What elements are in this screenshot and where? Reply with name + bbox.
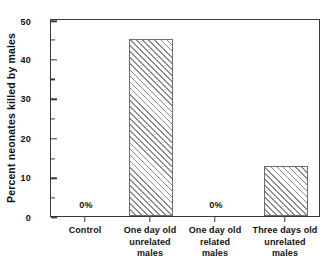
- y-tick-major-0: [51, 216, 57, 217]
- x-category-label-three-days-old-unrelated-males: Three days old unrelated males: [242, 225, 328, 260]
- y-tick-minor-5: [51, 198, 55, 199]
- x-category-line: Three days old: [242, 225, 328, 237]
- x-tick-one-day-old-unrelated-males: [149, 217, 150, 222]
- x-category-line: males: [242, 248, 328, 260]
- y-tick-label-40: 40: [0, 55, 31, 65]
- plot-area: 0 10 20 30 40 50 0% 0%: [50, 19, 320, 217]
- y-tick-major-20: [51, 138, 57, 139]
- bar-three-days-old-unrelated-males: [264, 166, 308, 216]
- y-tick-minor-25: [51, 118, 55, 119]
- x-tick-control: [84, 217, 85, 222]
- x-category-line: unrelated: [242, 237, 328, 249]
- y-axis-title: Percent neonates killed by males: [0, 19, 22, 217]
- y-tick-major-40: [51, 59, 57, 60]
- y-tick-minor-15: [51, 158, 55, 159]
- annotation-zero-percent-control: 0%: [79, 200, 92, 210]
- y-tick-major-50: [51, 20, 57, 21]
- y-tick-minor-35: [51, 79, 55, 80]
- y-tick-label-0: 0: [0, 213, 31, 223]
- y-tick-label-20: 20: [0, 134, 31, 144]
- x-tick-three-days-old-unrelated-males: [284, 217, 285, 222]
- annotation-zero-percent-one-day-old-related: 0%: [209, 200, 222, 210]
- bar-chart-figure: Percent neonates killed by males 0 10 20…: [0, 0, 334, 270]
- y-tick-label-30: 30: [0, 94, 31, 104]
- bar-one-day-old-unrelated-males: [129, 39, 173, 216]
- x-tick-one-day-old-related-males: [214, 217, 215, 222]
- y-tick-label-10: 10: [0, 173, 31, 183]
- y-tick-minor-45: [51, 39, 55, 40]
- y-tick-label-50: 50: [0, 17, 31, 27]
- y-tick-major-10: [51, 178, 57, 179]
- y-tick-major-30: [51, 98, 57, 99]
